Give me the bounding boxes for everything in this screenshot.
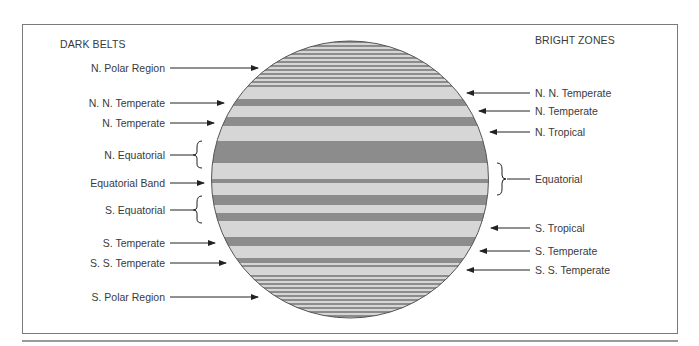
brace-neb-icon — [193, 141, 202, 168]
label-n-tropical-zone: N. Tropical — [535, 126, 585, 138]
label-n-equatorial-belt: N. Equatorial — [104, 149, 165, 161]
sst-belt — [200, 258, 500, 263]
label-s-equatorial-belt: S. Equatorial — [105, 204, 165, 216]
label-nn-temperate-zone: N. N. Temperate — [535, 87, 611, 99]
label-n-temperate-belt: N. Temperate — [102, 117, 165, 129]
nnt-belt — [200, 99, 500, 106]
label-ss-temperate-zone: S. S. Temperate — [535, 264, 610, 276]
label-s-temperate-belt: S. Temperate — [103, 237, 165, 249]
label-n-temperate-zone: N. Temperate — [535, 105, 598, 117]
label-s-tropical-zone: S. Tropical — [535, 222, 585, 234]
st-belt — [200, 237, 500, 246]
brace-equatorial-zone-icon — [497, 163, 506, 195]
seb-south — [200, 213, 500, 221]
label-s-temperate-zone: S. Temperate — [535, 245, 597, 257]
belts — [200, 99, 500, 267]
nt-belt — [200, 117, 500, 126]
neb-belt — [200, 141, 500, 163]
planet-disk — [200, 30, 500, 330]
label-ss-temperate-belt: S. S. Temperate — [90, 257, 165, 269]
equatorial-band — [200, 179, 500, 183]
label-nn-temperate-belt: N. N. Temperate — [89, 97, 165, 109]
brace-seb-icon — [193, 196, 202, 223]
seb-north — [200, 195, 500, 205]
label-n-polar-region: N. Polar Region — [91, 62, 165, 74]
label-equatorial-zone: Equatorial — [535, 173, 582, 185]
label-equatorial-band: Equatorial Band — [90, 177, 165, 189]
label-s-polar-region: S. Polar Region — [91, 291, 165, 303]
